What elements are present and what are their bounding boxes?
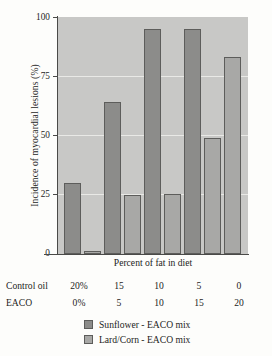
table-row-control-oil: Control oil 20% 15 10 5 0 [0,279,272,293]
y-tick-label-100: 100 [10,13,50,22]
bar-lardcorn-g2 [124,195,141,254]
control-oil-value-4: 5 [182,279,216,293]
control-oil-value-1: 20% [62,279,96,293]
plot-area [58,17,248,254]
bar-sunflower-g1 [64,183,81,254]
y-tick-label-25: 25 [10,190,50,199]
eaco-value-5: 20 [222,296,256,310]
bar-sunflower-g2 [104,102,121,254]
x-axis-title: Percent of fat in diet [58,257,248,268]
bar-lardcorn-g5 [224,57,241,254]
chart-figure: Incidence of myocardial lesions (%) 100 … [0,0,272,356]
y-axis-line [57,16,58,255]
y-tick-label-50: 50 [10,131,50,140]
eaco-value-4: 15 [182,296,216,310]
legend-label-lardcorn: Lard/Corn - EACO mix [99,333,190,346]
row-label-eaco: EACO [6,296,32,310]
legend-swatch-sunflower [84,320,93,329]
bar-sunflower-g3 [144,29,161,254]
x-axis-line [44,254,249,255]
legend-item-sunflower: Sunflower - EACO mix [0,318,272,331]
eaco-value-2: 5 [102,296,136,310]
eaco-value-1: 0% [62,296,96,310]
y-tick-label-75: 75 [10,72,50,81]
control-oil-value-3: 10 [142,279,176,293]
bar-lardcorn-g3 [164,194,181,254]
bar-sunflower-g4 [184,29,201,254]
legend-label-sunflower: Sunflower - EACO mix [99,318,190,331]
legend-swatch-lardcorn [84,335,93,344]
bar-lardcorn-g4 [204,138,221,254]
control-oil-value-2: 15 [102,279,136,293]
control-oil-value-5: 0 [222,279,256,293]
legend-item-lardcorn: Lard/Corn - EACO mix [0,333,272,346]
eaco-value-3: 10 [142,296,176,310]
row-label-control-oil: Control oil [6,279,48,293]
table-row-eaco: EACO 0% 5 10 15 20 [0,296,272,310]
